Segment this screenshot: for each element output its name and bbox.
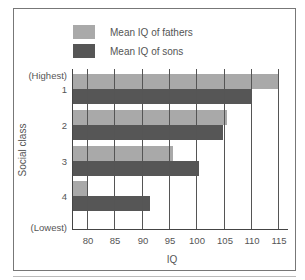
x-tick-90: 90	[138, 235, 149, 246]
bar-sons-class-2	[73, 125, 223, 140]
x-tick-85: 85	[110, 235, 121, 246]
gridline-110	[251, 69, 252, 229]
y-label-1: 1	[62, 84, 67, 95]
legend-label-fathers: Mean IQ of fathers	[110, 27, 193, 38]
x-tick-110: 110	[244, 235, 259, 246]
y-label-lowest: (Lowest)	[31, 222, 67, 233]
gridline-85	[114, 69, 115, 229]
y-label-2: 2	[62, 120, 67, 131]
gridline-95	[169, 69, 170, 229]
bar-fathers-class-4	[73, 181, 87, 196]
bar-fathers-class-3	[73, 146, 173, 161]
legend-item-fathers: Mean IQ of fathers	[73, 25, 193, 39]
legend-swatch-fathers	[73, 25, 95, 39]
y-label-4: 4	[62, 191, 67, 202]
bar-sons-class-4	[73, 196, 150, 211]
x-axis-line	[72, 229, 288, 230]
gridline-100	[196, 69, 197, 229]
y-label-highest: (Highest)	[28, 70, 67, 81]
legend-label-sons: Mean IQ of sons	[110, 46, 183, 57]
gridline-90	[142, 69, 143, 229]
x-tick-95: 95	[165, 235, 176, 246]
bar-fathers-class-1	[73, 74, 278, 89]
x-tick-100: 100	[189, 235, 205, 246]
y-label-3: 3	[62, 156, 67, 167]
legend-item-sons: Mean IQ of sons	[73, 44, 183, 58]
gridline-105	[224, 69, 225, 229]
x-axis-title: IQ	[167, 254, 178, 265]
legend-swatch-sons	[73, 44, 95, 58]
gridline-80	[87, 69, 88, 229]
y-axis-title: Social class	[17, 124, 28, 177]
x-tick-80: 80	[83, 235, 94, 246]
gridline-115	[278, 69, 279, 229]
divider	[13, 276, 296, 277]
x-tick-115: 115	[271, 235, 286, 246]
x-tick-105: 105	[217, 235, 233, 246]
bar-sons-class-3	[73, 161, 199, 176]
bar-fathers-class-2	[73, 110, 227, 125]
